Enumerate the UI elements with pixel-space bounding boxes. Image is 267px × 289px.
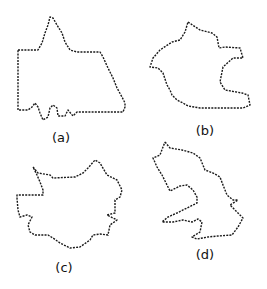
contour-b xyxy=(150,22,250,108)
figure: (a) (b) (c) (d) xyxy=(0,0,267,289)
contour-d xyxy=(153,142,243,239)
panel-label-a: (a) xyxy=(52,131,70,144)
panel-label-d: (d) xyxy=(196,248,214,261)
panel-label-c: (c) xyxy=(55,261,72,274)
panel-label-b: (b) xyxy=(196,124,214,137)
contour-a xyxy=(18,17,125,120)
contour-canvas xyxy=(0,0,267,289)
contour-c xyxy=(17,160,122,248)
